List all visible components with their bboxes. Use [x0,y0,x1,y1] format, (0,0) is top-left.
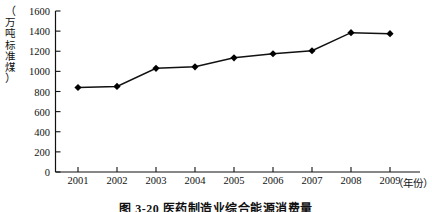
x-axis-tick-label: 2001 [68,175,89,186]
x-axis-tick-label: 2008 [341,175,362,186]
x-axis-tick-label: 2003 [146,175,167,186]
x-axis-unit-label: （年份） [393,175,432,190]
x-axis-tick-label: 2006 [263,175,284,186]
x-axis-tick-label: 2004 [185,175,206,186]
x-axis-tick-label: 2007 [302,175,323,186]
chart-figure: （ 万 吨 标 准 煤 ） 02004006008001000120014001… [0,0,432,212]
x-axis-tick-labels: 200120022003200420052006200720082009 [0,0,432,212]
x-axis-tick-label: 2002 [107,175,128,186]
x-axis-tick-label: 2005 [224,175,245,186]
figure-caption: 图 3-20 医药制造业综合能源消费量 [0,199,432,212]
